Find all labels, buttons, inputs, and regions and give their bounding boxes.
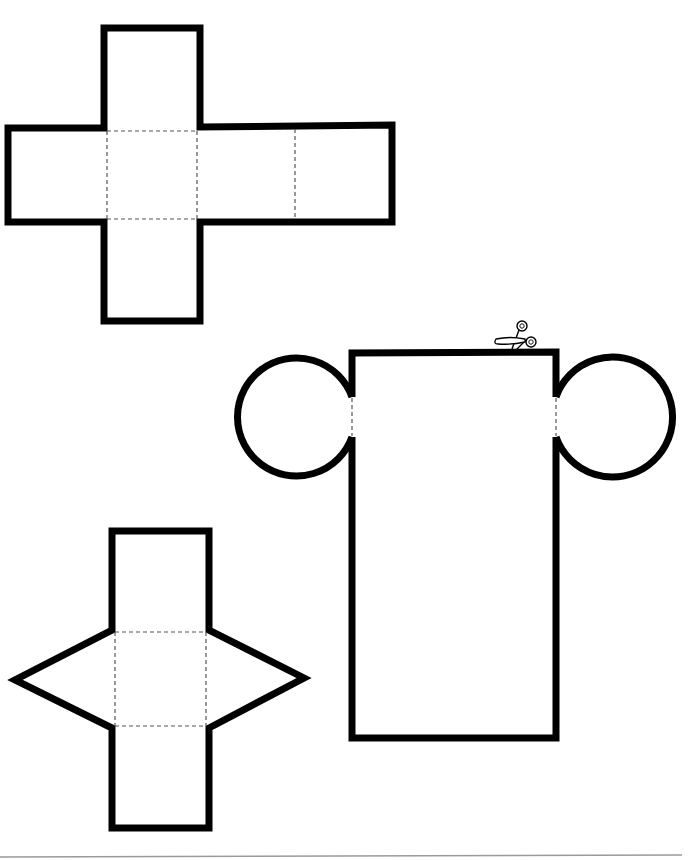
- cylinder-left-base: [237, 358, 352, 476]
- cylinder-right-base: [556, 357, 673, 477]
- cube-net-outline: [8, 28, 392, 321]
- cube-net: [8, 28, 392, 321]
- page-edge: [0, 855, 682, 857]
- prism-net-outline: [15, 531, 304, 828]
- scissors-icon: [495, 321, 536, 350]
- triangular-prism-net: [15, 531, 304, 828]
- cylinder-body: [352, 352, 556, 738]
- nets-sheet: [0, 0, 698, 860]
